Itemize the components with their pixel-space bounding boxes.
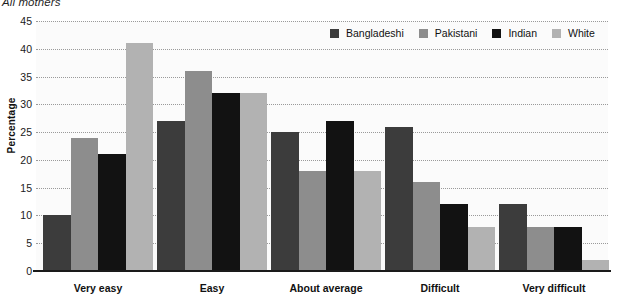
y-tick-label: 30 [2, 98, 32, 110]
legend-label: Indian [508, 27, 537, 39]
x-tick-label: Very easy [74, 282, 122, 294]
y-tick-label: 40 [2, 43, 32, 55]
x-tick-label: About average [290, 282, 363, 294]
bar [240, 93, 268, 271]
y-tick-label: 45 [2, 15, 32, 27]
y-tick-label: 35 [2, 71, 32, 83]
y-tick-label: 0 [2, 265, 32, 277]
bar [413, 182, 441, 271]
gridline [36, 104, 608, 105]
x-tick-label: Easy [200, 282, 225, 294]
bar [126, 43, 154, 271]
legend-item: White [552, 27, 595, 39]
legend-label: Pakistani [435, 27, 478, 39]
bar [71, 138, 99, 271]
bar [185, 71, 213, 271]
x-tick-label: Very difficult [522, 282, 585, 294]
bar [271, 132, 299, 271]
bar [527, 227, 555, 271]
bar [554, 227, 582, 271]
bar [212, 93, 240, 271]
bar [499, 204, 527, 271]
bar [354, 171, 382, 271]
bar [98, 154, 126, 271]
bar [326, 121, 354, 271]
legend-swatch-icon [492, 29, 501, 38]
bar-chart-figure: All mothers Percentage 05101520253035404… [0, 0, 618, 302]
y-tick-label: 5 [2, 237, 32, 249]
bar [468, 227, 496, 271]
legend-label: White [568, 27, 595, 39]
y-tick-label: 25 [2, 126, 32, 138]
x-axis-baseline [33, 270, 611, 272]
bar [385, 127, 413, 271]
y-tick-label: 20 [2, 154, 32, 166]
bar [157, 121, 185, 271]
bar [43, 215, 71, 271]
legend-label: Bangladeshi [346, 27, 404, 39]
legend-swatch-icon [330, 29, 339, 38]
x-tick-label: Difficult [420, 282, 459, 294]
bar [440, 204, 468, 271]
legend-swatch-icon [552, 29, 561, 38]
plot-area [36, 21, 608, 271]
gridline [36, 21, 608, 22]
bar [299, 171, 327, 271]
gridline [36, 132, 608, 133]
chart-legend: BangladeshiPakistaniIndianWhite [330, 26, 595, 40]
legend-swatch-icon [419, 29, 428, 38]
y-tick-label: 10 [2, 209, 32, 221]
gridline [36, 77, 608, 78]
legend-item: Pakistani [419, 27, 478, 39]
y-axis-tick-labels: 051015202530354045 [0, 0, 32, 302]
y-tick-label: 15 [2, 182, 32, 194]
legend-item: Bangladeshi [330, 27, 404, 39]
gridline [36, 49, 608, 50]
legend-item: Indian [492, 27, 537, 39]
